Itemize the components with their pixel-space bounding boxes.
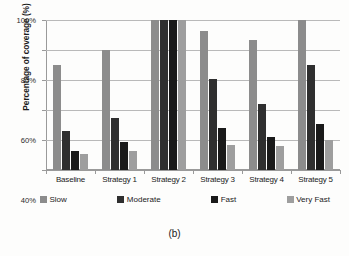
- bar-group: [291, 20, 340, 170]
- bar: [129, 151, 137, 171]
- bar: [71, 151, 79, 171]
- chart-legend: SlowModerateFastVery Fast: [40, 195, 330, 204]
- x-axis-tick: [242, 170, 243, 174]
- plot-area: 100%80%60%40%20%0%: [46, 20, 340, 170]
- y-axis-tick-label: 80%: [21, 76, 36, 85]
- legend-label: Slow: [50, 195, 67, 204]
- bar: [298, 20, 306, 170]
- legend-item-fast[interactable]: Fast: [211, 195, 236, 204]
- bar-group: [144, 20, 193, 170]
- bar: [209, 79, 217, 171]
- legend-label: Very Fast: [296, 195, 330, 204]
- x-axis-labels: BaselineStrategy 1Strategy 2Strategy 3St…: [46, 175, 340, 184]
- legend-swatch-icon: [287, 196, 294, 203]
- legend-item-slow[interactable]: Slow: [40, 195, 67, 204]
- bar: [316, 124, 324, 171]
- legend-swatch-icon: [211, 196, 218, 203]
- bar: [151, 20, 159, 170]
- bar: [227, 145, 235, 171]
- bar-groups: [46, 20, 340, 170]
- legend-item-very-fast[interactable]: Very Fast: [287, 195, 330, 204]
- legend-label: Fast: [221, 195, 237, 204]
- bar: [53, 65, 61, 170]
- bar: [80, 154, 88, 171]
- legend-label: Moderate: [127, 195, 161, 204]
- x-axis-tick: [46, 170, 47, 174]
- x-axis-tick: [291, 170, 292, 174]
- figure-caption: (b): [0, 228, 349, 239]
- bar-group: [95, 20, 144, 170]
- bar: [62, 131, 70, 170]
- bar: [267, 137, 275, 170]
- x-axis-label-baseline: Baseline: [46, 175, 95, 184]
- y-axis-tick-label: 40%: [21, 196, 36, 205]
- x-axis-tick: [144, 170, 145, 174]
- y-axis-tick-label: 60%: [21, 136, 36, 145]
- bar: [200, 31, 208, 171]
- x-axis-label-strategy-5: Strategy 5: [291, 175, 340, 184]
- bar-group: [242, 20, 291, 170]
- bar: [178, 20, 186, 170]
- figure-panel: Percentage of coverage (%) 100%80%60%40%…: [0, 0, 349, 256]
- bar: [307, 65, 315, 170]
- bar: [276, 146, 284, 170]
- bar-group: [46, 20, 95, 170]
- bar: [218, 128, 226, 170]
- bar: [160, 20, 168, 170]
- bar: [258, 104, 266, 170]
- bar: [169, 20, 177, 170]
- bar: [102, 50, 110, 170]
- x-axis-label-strategy-4: Strategy 4: [242, 175, 291, 184]
- bar: [111, 118, 119, 171]
- x-axis-tick: [193, 170, 194, 174]
- x-axis-tick: [340, 170, 341, 174]
- legend-item-moderate[interactable]: Moderate: [117, 195, 160, 204]
- x-axis-label-strategy-1: Strategy 1: [95, 175, 144, 184]
- x-axis-label-strategy-3: Strategy 3: [193, 175, 242, 184]
- x-axis-label-strategy-2: Strategy 2: [144, 175, 193, 184]
- legend-swatch-icon: [40, 196, 47, 203]
- x-axis-tick: [95, 170, 96, 174]
- bar: [249, 40, 257, 171]
- bar: [120, 142, 128, 171]
- legend-swatch-icon: [117, 196, 124, 203]
- bar: [325, 140, 333, 170]
- y-axis-tick-label: 100%: [17, 16, 36, 25]
- bar-group: [193, 20, 242, 170]
